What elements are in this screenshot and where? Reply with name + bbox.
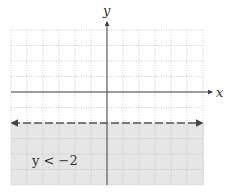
inequality-graph: x y y < −2 xyxy=(0,0,231,196)
x-axis-label: x xyxy=(216,85,224,100)
y-axis-label: y xyxy=(102,3,111,18)
inequality-label: y < −2 xyxy=(31,153,78,168)
